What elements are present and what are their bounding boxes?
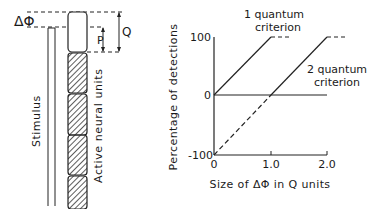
y-tick-100: 100 bbox=[190, 31, 211, 44]
hollow-unit bbox=[68, 12, 87, 52]
active-unit bbox=[68, 53, 87, 93]
active-unit bbox=[68, 135, 87, 175]
active-units-label: Active neural units bbox=[92, 69, 105, 184]
annotation-1-line2: criterion bbox=[255, 21, 301, 34]
detection-chart: 100 0 -100 0 1.0 2.0 Size of ΔΦ in Q uni… bbox=[167, 8, 367, 191]
delta-phi-label: ΔΦ bbox=[14, 13, 35, 29]
series-1-quantum bbox=[214, 37, 271, 95]
series-2-dashed bbox=[214, 95, 271, 155]
q-label: Q bbox=[122, 25, 131, 39]
annotation-1-line1: 1 quantum bbox=[244, 8, 304, 21]
active-unit bbox=[68, 94, 87, 135]
x-tick-0: 0 bbox=[211, 158, 218, 171]
p-label: P bbox=[97, 34, 104, 47]
x-tick-2: 2.0 bbox=[318, 158, 336, 171]
y-axis-label: Percentage of detections bbox=[167, 24, 180, 171]
stimulus-label: Stimulus bbox=[30, 95, 43, 147]
x-axis-label: Size of ΔΦ in Q units bbox=[210, 178, 331, 191]
x-tick-1: 1.0 bbox=[262, 158, 280, 171]
figure: ΔΦ Q P Stimulus Active neural units bbox=[0, 0, 372, 209]
y-tick-neg100: -100 bbox=[188, 149, 213, 162]
annotation-2-line2: criterion bbox=[314, 76, 360, 89]
neural-units-diagram: ΔΦ Q P Stimulus Active neural units bbox=[14, 12, 131, 209]
y-tick-0: 0 bbox=[204, 89, 211, 102]
active-unit bbox=[68, 176, 87, 209]
annotation-2-line1: 2 quantum bbox=[307, 63, 367, 76]
